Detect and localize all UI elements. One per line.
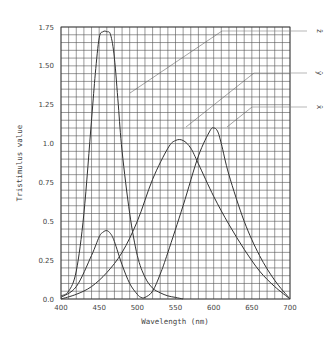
tristimulus-chart: 0.00.250.50.751.01.251.501.75 4004505005… xyxy=(0,0,336,342)
x-tick-label: 400 xyxy=(54,304,67,312)
legend-leader-z xyxy=(130,31,222,93)
y-tick-label: 0.75 xyxy=(38,179,54,187)
legend-leader-x xyxy=(227,107,252,127)
y-tick-label: 1.50 xyxy=(38,62,54,70)
y-axis-label: Tristimulus value xyxy=(15,124,24,201)
x-tick-label: 650 xyxy=(245,304,258,312)
x-axis-label: Wavelength (nm) xyxy=(141,317,209,326)
y-tick-label: 1.0 xyxy=(43,140,54,148)
legend-label-x: x̄ xyxy=(315,105,324,110)
x-tick-label: 450 xyxy=(92,304,105,312)
y-tick-label: 0.5 xyxy=(43,218,54,226)
y-tick-label: 0.0 xyxy=(43,296,54,304)
legend-label-z: z̄ xyxy=(315,29,324,34)
x-tick-label: 500 xyxy=(131,304,144,312)
y-tick-label: 0.25 xyxy=(38,257,54,265)
legend-label-y: ȳ xyxy=(315,71,324,76)
x-axis-ticks: 400450500550600650700 xyxy=(54,304,296,312)
y-axis-ticks: 0.00.250.50.751.01.251.501.75 xyxy=(38,24,54,304)
y-tick-label: 1.75 xyxy=(38,24,54,32)
x-tick-label: 700 xyxy=(283,304,296,312)
x-tick-label: 600 xyxy=(207,304,220,312)
y-tick-label: 1.25 xyxy=(38,101,54,109)
x-tick-label: 550 xyxy=(169,304,182,312)
